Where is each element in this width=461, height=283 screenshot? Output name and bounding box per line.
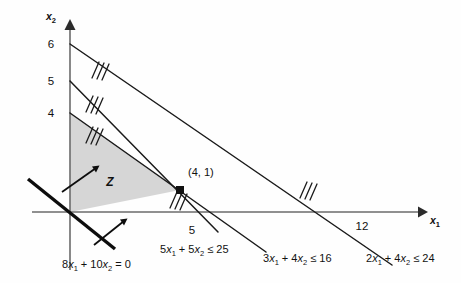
optimal-vertex-marker: [176, 186, 184, 194]
feasible-region-label: Z: [105, 175, 114, 189]
constraint-label-3x1-4x2: 3x1 + 4x2 ≤ 16: [263, 252, 332, 267]
objective-direction-arrow-lower: [94, 219, 128, 246]
x-axis-label: x1: [429, 214, 440, 229]
tick-label-x-5: 5: [189, 224, 195, 236]
tick-label-x-12: 12: [356, 220, 369, 232]
tick-label-y-4: 4: [48, 107, 55, 119]
y-axis-label: x2: [45, 10, 56, 25]
tick-label-y-5: 5: [48, 75, 54, 87]
y-axis-arrowhead: [65, 19, 76, 30]
x-axis-arrowhead: [418, 207, 428, 218]
lp-graph-canvas: x1 x2 6 5 4 5 12 Z (4, 1) 8x1 + 10x2 = 0…: [0, 0, 461, 283]
lp-figure-root: x1 x2 6 5 4 5 12 Z (4, 1) 8x1 + 10x2 = 0…: [0, 0, 461, 283]
constraint-label-2x1-4x2: 2x1 + 4x2 ≤ 24: [366, 252, 435, 267]
objective-function-label: 8x1 + 10x2 = 0: [62, 258, 131, 273]
feasible-region-polygon: [70, 113, 180, 212]
optimal-point-label: (4, 1): [188, 166, 214, 178]
constraint-label-5x1-5x2: 5x1 + 5x2 ≤ 25: [160, 243, 229, 258]
tick-label-y-6: 6: [48, 38, 54, 50]
hatch-group-2x1-4x2-right: [300, 182, 317, 200]
